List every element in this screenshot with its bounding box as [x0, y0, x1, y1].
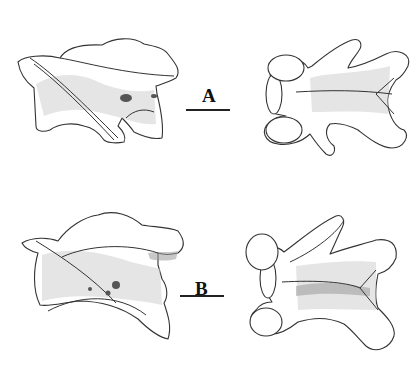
panel-b-lateral-view: [18, 207, 188, 357]
panel-a-dorsal-view: [240, 18, 410, 163]
panel-a-lateral-view: [14, 34, 184, 149]
panel-b-dorsal-view: [226, 206, 406, 366]
scale-bar-a: [186, 109, 230, 111]
vertebra-figure: A B: [0, 0, 420, 381]
panel-label-a: A: [202, 86, 216, 105]
scale-bar-b: [180, 295, 224, 297]
